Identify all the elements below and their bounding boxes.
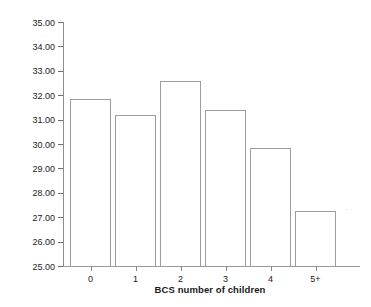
y-axis-tick: 25.00: [58, 266, 63, 267]
x-axis-tick: [271, 266, 272, 271]
y-axis-tick-label: 34.00: [32, 42, 55, 52]
x-axis-title: BCS number of children: [60, 284, 360, 295]
bar: [295, 211, 336, 266]
y-axis-tick-label: 29.00: [32, 164, 55, 174]
x-axis-tick-label: 1: [116, 274, 156, 284]
y-axis-tick: 32.00: [58, 95, 63, 96]
x-axis-tick-label: 0: [71, 274, 111, 284]
y-axis-tick: 31.00: [58, 120, 63, 121]
bar: [115, 115, 156, 266]
y-axis-tick-label: 31.00: [32, 115, 55, 125]
bar: [160, 81, 201, 266]
scan-artifact: ·: [40, 32, 43, 41]
bar: [70, 99, 111, 266]
y-axis-tick: 34.00: [58, 46, 63, 47]
x-axis-tick-label: 3: [206, 274, 246, 284]
y-axis-tick: 33.00: [58, 71, 63, 72]
y-axis-tick-label: 33.00: [32, 66, 55, 76]
bar: [205, 110, 246, 266]
y-axis-tick: 28.00: [58, 193, 63, 194]
x-axis-tick: [181, 266, 182, 271]
y-axis-tick: 30.00: [58, 144, 63, 145]
y-axis-tick-label: 35.00: [32, 18, 55, 28]
x-axis-tick: [316, 266, 317, 271]
y-axis-tick-label: 26.00: [32, 237, 55, 247]
y-axis-title: BCS mean self-control: [0, 0, 16, 307]
x-axis-title-text: BCS number of children: [155, 284, 266, 295]
bar: [250, 148, 291, 266]
y-axis-tick-label: 30.00: [32, 140, 55, 150]
x-axis-tick-label: 4: [251, 274, 291, 284]
bar-chart-figure: BCS mean self-control 25.0026.0027.0028.…: [0, 0, 371, 307]
y-axis-tick-label: 25.00: [32, 262, 55, 272]
plot-area: 25.0026.0027.0028.0029.0030.0031.0032.00…: [63, 20, 360, 268]
y-axis-tick: 27.00: [58, 217, 63, 218]
y-axis-tick: 26.00: [58, 242, 63, 243]
x-axis-tick: [226, 266, 227, 271]
y-axis-tick: 35.00: [58, 22, 63, 23]
y-axis-line: [63, 22, 64, 267]
x-axis-tick: [136, 266, 137, 271]
y-axis-tick-label: 32.00: [32, 91, 55, 101]
y-axis-tick-label: 27.00: [32, 213, 55, 223]
x-axis-tick-label: 2: [161, 274, 201, 284]
y-axis-tick-label: 28.00: [32, 188, 55, 198]
x-axis-tick-label: 5+: [296, 274, 336, 284]
y-axis-tick: 29.00: [58, 168, 63, 169]
x-axis-tick: [91, 266, 92, 271]
